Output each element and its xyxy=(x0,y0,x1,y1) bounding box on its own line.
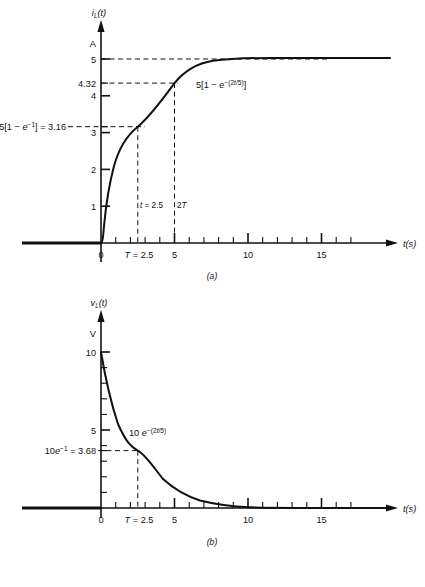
svg-text:15: 15 xyxy=(316,515,326,525)
marker-label-t25: t = 2.5 xyxy=(140,201,163,210)
svg-text:3: 3 xyxy=(91,128,96,138)
x-axis-a xyxy=(22,239,398,246)
svg-text:2: 2 xyxy=(91,165,96,175)
y-ticks-a xyxy=(101,59,110,206)
chart-panel-b: 10 5 3.68 0 T = 2.5 5 10 15 V vL(t) t(s)… xyxy=(0,290,425,587)
guide-lines-b xyxy=(98,451,140,508)
svg-text:5: 5 xyxy=(172,515,177,525)
x-axis-title-b: t(s) xyxy=(403,504,416,514)
y-unit-label-a: A xyxy=(90,38,97,49)
chart-panel-a: 5 5 4.32 4 3 2 1 0 T = 2.5 5 10 15 A iL(… xyxy=(0,0,425,290)
panel-caption-b: (b) xyxy=(207,537,218,547)
panel-caption-a: (a) xyxy=(207,271,218,281)
svg-text:T = 2.5: T = 2.5 xyxy=(125,515,154,525)
figure-container: 5 5 4.32 4 3 2 1 0 T = 2.5 5 10 15 A iL(… xyxy=(0,0,425,587)
x-axis-title-a: t(s) xyxy=(403,239,416,249)
svg-text:5: 5 xyxy=(91,55,96,65)
svg-text:4.32: 4.32 xyxy=(78,79,96,89)
svg-text:1: 1 xyxy=(91,202,96,212)
y-unit-label-b: V xyxy=(90,328,97,339)
x-axis-arrowhead-a xyxy=(386,239,398,246)
svg-text:5: 5 xyxy=(91,426,96,436)
y-axis-arrowhead-b xyxy=(97,310,104,322)
y-axis-labels-a: 5 4.32 4 3 2 1 xyxy=(78,55,96,212)
marker-label-2T: 2T xyxy=(177,201,188,210)
curve-equation-label-a: 5[1 − e−(2t/5)] xyxy=(196,79,246,90)
curve-equation-label-b: 10 e−(2t/5) xyxy=(129,427,166,438)
x-ticks-a xyxy=(116,233,351,243)
svg-text:4: 4 xyxy=(91,91,96,101)
svg-text:5: 5 xyxy=(172,250,177,260)
svg-text:0: 0 xyxy=(98,515,103,525)
svg-text:15: 15 xyxy=(316,250,326,260)
y-axis-title-b: vL(t) xyxy=(91,298,108,309)
left-annotation-a: 5[1 − e−1] = 3.16 xyxy=(0,121,66,132)
svg-text:T = 2.5: T = 2.5 xyxy=(125,250,154,260)
svg-text:10: 10 xyxy=(243,515,253,525)
left-annotation-b-full: 10e−1 = 3.68 xyxy=(45,445,96,456)
svg-text:10: 10 xyxy=(86,348,96,358)
x-axis-labels-b: 0 T = 2.5 5 10 15 xyxy=(98,515,326,525)
y-axis-arrowhead-a xyxy=(97,20,104,32)
svg-text:0: 0 xyxy=(98,250,103,260)
y-axis-title-a: iL(t) xyxy=(92,8,106,19)
svg-text:10: 10 xyxy=(243,250,253,260)
x-axis-labels-a: 0 T = 2.5 5 10 15 xyxy=(98,250,326,260)
y-axis-labels-b: 10 5 3.68 xyxy=(86,348,96,436)
